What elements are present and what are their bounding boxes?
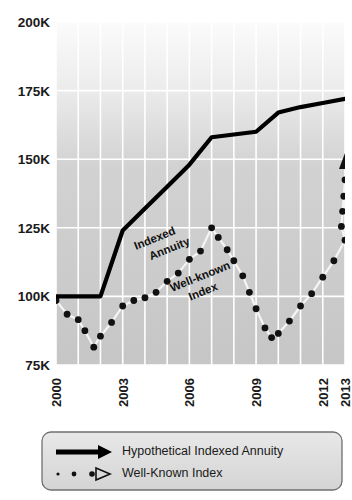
- index-data-point: [119, 303, 126, 310]
- index-data-point: [175, 270, 182, 277]
- index-data-point: [308, 290, 315, 297]
- index-data-point: [64, 311, 71, 318]
- index-data-point: [330, 257, 337, 264]
- chart-container: 75K100K125K150K175K200K 2000200320062009…: [0, 0, 352, 500]
- y-axis-tick-label: 75K: [25, 358, 50, 373]
- legend-label-annuity: Hypothetical Indexed Annuity: [122, 444, 284, 458]
- svg-text:2006: 2006: [182, 378, 197, 407]
- y-axis-tick-label: 100K: [18, 289, 51, 304]
- y-axis-tick-label: 200K: [18, 15, 51, 30]
- index-data-point: [268, 334, 275, 341]
- index-data-point: [142, 294, 149, 301]
- plot-background: [56, 22, 345, 365]
- x-axis-tick-label: 2013: [338, 378, 352, 407]
- index-data-point: [215, 234, 222, 241]
- svg-text:2012: 2012: [316, 378, 331, 407]
- growth-comparison-chart: 75K100K125K150K175K200K 2000200320062009…: [0, 0, 352, 500]
- legend-dot-icon-3: [89, 471, 95, 477]
- index-data-point: [246, 289, 253, 296]
- index-data-point: [186, 256, 193, 263]
- index-data-point: [339, 208, 346, 215]
- index-data-point: [230, 257, 237, 264]
- index-data-point: [253, 305, 260, 312]
- index-data-point: [108, 319, 115, 326]
- index-data-point: [286, 318, 293, 325]
- svg-text:2009: 2009: [249, 378, 264, 407]
- index-data-point: [208, 224, 215, 231]
- legend-dot-icon-2: [72, 472, 77, 477]
- index-data-point: [153, 289, 160, 296]
- legend-dot-icon-1: [56, 472, 59, 475]
- legend-box: [42, 432, 342, 490]
- legend: Hypothetical Indexed Annuity Well-Known …: [42, 432, 342, 490]
- y-axis-tick-label: 175K: [18, 84, 51, 99]
- y-axis-tick-label: 125K: [18, 221, 51, 236]
- index-data-point: [338, 223, 345, 230]
- legend-label-index: Well-Known Index: [122, 466, 223, 480]
- index-data-point: [262, 325, 269, 332]
- x-axis-tick-label: 2000: [49, 378, 64, 407]
- x-axis-tick-label: 2006: [182, 378, 197, 407]
- index-data-point: [130, 297, 137, 304]
- y-axis-tick-label: 150K: [18, 152, 51, 167]
- index-data-point: [319, 274, 326, 281]
- x-axis-tick-label: 2012: [316, 378, 331, 407]
- index-data-point: [239, 272, 246, 279]
- svg-text:2013: 2013: [338, 378, 352, 407]
- svg-text:2000: 2000: [49, 378, 64, 407]
- index-data-point: [75, 316, 82, 323]
- x-axis-tick-label: 2009: [249, 378, 264, 407]
- index-data-point: [275, 330, 282, 337]
- index-data-point: [297, 303, 304, 310]
- x-axis-tick-label: 2003: [116, 378, 131, 407]
- index-data-point: [82, 327, 89, 334]
- index-data-point: [224, 246, 231, 253]
- index-data-point: [90, 344, 97, 351]
- index-data-point: [97, 333, 104, 340]
- index-data-point: [197, 248, 204, 255]
- svg-text:2003: 2003: [116, 378, 131, 407]
